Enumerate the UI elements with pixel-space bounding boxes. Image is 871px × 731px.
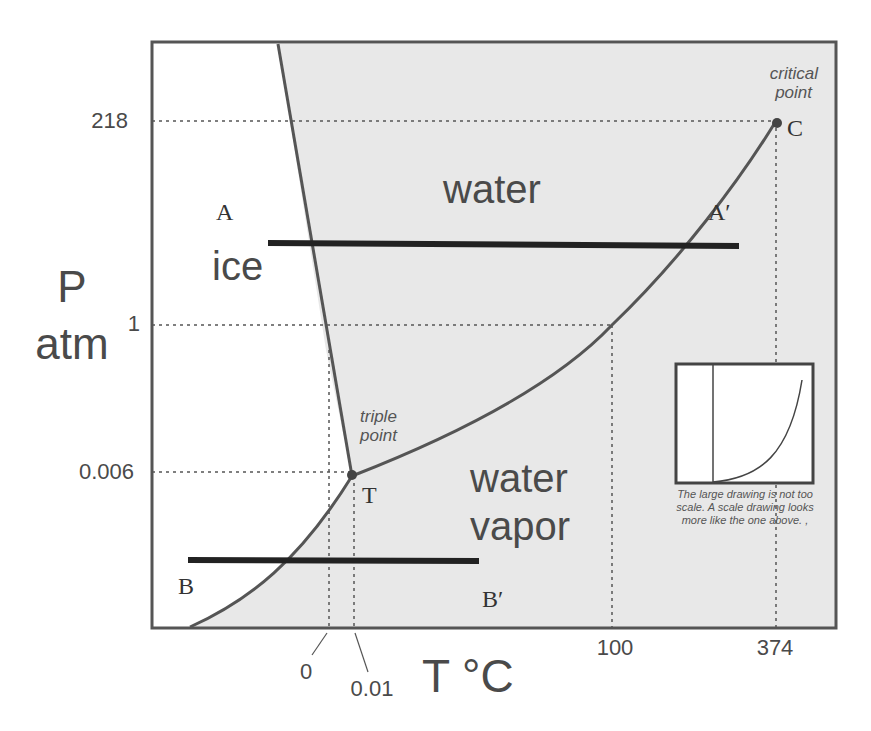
x-tick-374: 374 [757,635,794,660]
tick-leader-0 [312,633,327,655]
y-axis-label-atm: atm [35,319,108,368]
x-axis-label: T °C [422,650,514,702]
region-label-vapor-2: vapor [470,504,570,548]
y-tick-218: 218 [91,108,128,133]
path-label-a: A [216,199,234,225]
critical-point-letter: C [787,115,803,141]
path-label-b: B [178,573,194,599]
critical-point-marker [772,118,782,128]
x-tick-100: 100 [597,635,634,660]
region-label-vapor-1: water [469,456,568,500]
triple-point-marker [347,470,357,480]
y-tick-0006: 0.006 [79,459,134,484]
phase-diagram: 218 1 0.006 P atm 0 0.01 100 374 T °C ic… [0,0,871,731]
y-tick-1: 1 [128,311,140,336]
triple-point-label-2: point [359,426,398,445]
path-label-a-prime: A′ [708,199,731,225]
x-tick-0: 0 [300,659,312,684]
triple-point-label-1: triple [360,407,397,426]
path-a-line [268,243,739,246]
region-label-water: water [442,167,541,211]
path-label-b-prime: B′ [482,586,503,612]
path-b-line [188,560,479,561]
y-axis-label-p: P [57,262,86,311]
critical-point-label-1: critical [770,64,819,83]
x-tick-001: 0.01 [351,676,394,701]
inset-caption: The large drawing is not too scale. A sc… [670,488,820,527]
triple-point-letter: T [362,482,377,508]
region-label-ice: ice [212,244,263,288]
tick-leader-001 [355,633,368,672]
critical-point-label-2: point [774,83,813,102]
inset-scale-drawing [676,364,813,483]
